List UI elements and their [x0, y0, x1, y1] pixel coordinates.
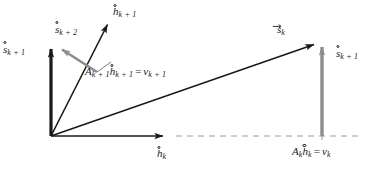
label-subscript: k + 2: [59, 28, 77, 37]
label-base: s: [55, 24, 59, 35]
label-subscript: k + 1: [7, 48, 25, 57]
equation-equals: =: [133, 65, 143, 77]
equation-v-subscript: k: [327, 150, 331, 159]
vector-diagram-figure: sk + 1 sk + 2 hk + 1 sk sk + 1 hk Ak + 1…: [0, 0, 376, 172]
label-subscript: k + 1: [119, 10, 137, 19]
label-subscript: k: [163, 152, 167, 161]
equation-h-subscript: k + 1: [115, 70, 133, 79]
label-subscript: k + 1: [340, 52, 358, 61]
equation-h: h: [110, 66, 116, 77]
label-s-k-plus-2: sk + 2: [55, 24, 77, 37]
vector-arrow-accent-icon: [273, 24, 282, 28]
equation-a-k-plus-1: Ak + 1hk + 1=vk + 1: [85, 66, 166, 79]
equation-A-subscript: k + 1: [92, 70, 110, 79]
label-s-k-vector: sk: [277, 24, 285, 37]
equation-A: A: [85, 65, 92, 77]
equation-A: A: [292, 145, 299, 157]
label-h-k-plus-1: hk + 1: [113, 6, 136, 19]
label-base: h: [113, 6, 119, 17]
equation-a-k: Akhk=vk: [292, 146, 331, 159]
label-base: s: [3, 44, 7, 55]
equation-equals: =: [312, 145, 322, 157]
label-subscript: k: [281, 28, 285, 37]
label-s-k-plus-1-right: sk + 1: [336, 48, 358, 61]
equation-v-subscript: k + 1: [148, 70, 166, 79]
label-h-k: hk: [157, 148, 166, 161]
label-base: s: [336, 48, 340, 59]
equation-h: h: [303, 146, 309, 157]
label-s-k-plus-1-left: sk + 1: [3, 44, 25, 57]
label-base: h: [157, 148, 163, 159]
